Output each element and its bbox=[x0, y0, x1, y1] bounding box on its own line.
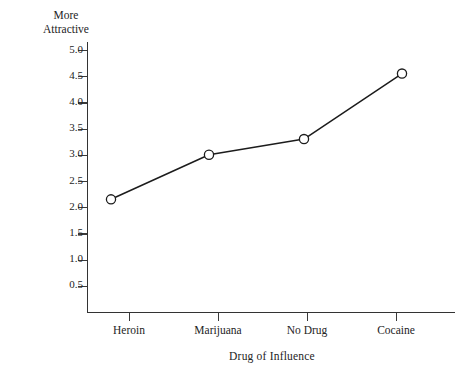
data-point-heroin bbox=[106, 195, 115, 204]
series-line bbox=[111, 74, 402, 200]
y-tick-label: 1.5 bbox=[69, 226, 83, 238]
data-series-group bbox=[87, 42, 455, 313]
y-tick-label: 2.0 bbox=[69, 200, 83, 212]
y-tick-label: 5.0 bbox=[69, 43, 83, 55]
x-tick-mark bbox=[307, 313, 308, 321]
line-chart: More Attractive Attractive Ratings (Mean… bbox=[0, 0, 459, 387]
y-tick-label: 3.5 bbox=[69, 121, 83, 133]
x-tick-mark bbox=[218, 313, 219, 321]
x-tick-mark bbox=[129, 313, 130, 321]
x-axis-title: Drug of Influence bbox=[85, 350, 459, 362]
y-tick-label: 2.5 bbox=[69, 174, 83, 186]
x-tick-label-heroin: Heroin bbox=[113, 324, 145, 336]
y-tick-label: 4.0 bbox=[69, 95, 83, 107]
plot-area: 5.04.54.03.53.02.52.01.51.00.5 HeroinMar… bbox=[87, 42, 455, 313]
x-tick-mark bbox=[396, 313, 397, 321]
y-tick-label: 3.0 bbox=[69, 147, 83, 159]
y-tick-label: 1.0 bbox=[69, 252, 83, 264]
y-tick-label: 0.5 bbox=[69, 278, 83, 290]
data-point-marijuana bbox=[204, 150, 213, 159]
x-tick-label-marijuana: Marijuana bbox=[194, 324, 241, 336]
series-markers bbox=[106, 69, 406, 204]
more-attractive-annotation: More Attractive bbox=[18, 9, 114, 36]
x-tick-label-no-drug: No Drug bbox=[287, 324, 328, 336]
x-tick-label-cocaine: Cocaine bbox=[377, 324, 415, 336]
y-tick-label: 4.5 bbox=[69, 69, 83, 81]
data-point-cocaine bbox=[397, 69, 406, 78]
data-point-no-drug bbox=[299, 134, 308, 143]
